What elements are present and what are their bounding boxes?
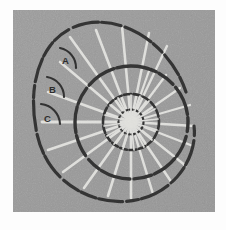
plate-grain-overlay [13, 10, 215, 212]
shell-spiral-figure: A B C [0, 0, 226, 230]
figure-container: A B C [0, 0, 226, 230]
